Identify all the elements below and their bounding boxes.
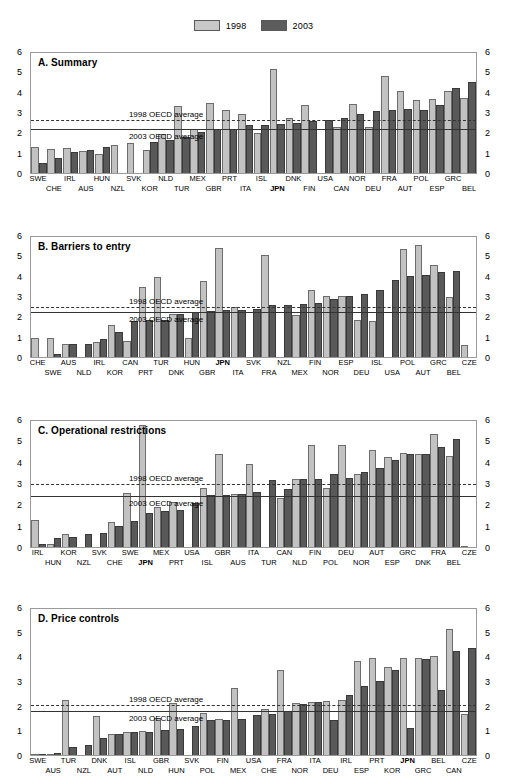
- bar-AUS-1998: [79, 151, 87, 173]
- bar-GBR-2003: [223, 495, 230, 547]
- bar-IRL-1998: [31, 520, 38, 547]
- bar-GBR-1998: [154, 718, 161, 755]
- bar-NOR-1998: [323, 296, 330, 357]
- bar-POL-1998: [400, 249, 407, 357]
- y-tick-3: 3: [481, 479, 507, 489]
- bar-NLD-2003: [85, 344, 92, 357]
- bar-group: [92, 609, 107, 755]
- bar-TUR-2003: [182, 137, 190, 173]
- bar-MEX-2003: [161, 511, 168, 547]
- bar-group: [307, 237, 322, 357]
- reference-line-2003-average: 2003 OECD average: [31, 496, 476, 497]
- y-axis-left: 6543210: [0, 608, 26, 756]
- bar-FIN-2003: [315, 479, 322, 547]
- y-tick-3: 3: [0, 108, 26, 118]
- x-label-CZE: CZE: [449, 548, 489, 558]
- bar-SWE-1998: [47, 338, 54, 357]
- y-tick-6: 6: [481, 47, 507, 57]
- reference-line-2003-average: 2003 OECD average: [31, 711, 476, 712]
- bar-JPN-2003: [407, 728, 414, 755]
- bar-group: [277, 609, 292, 755]
- bar-HUN-1998: [185, 338, 192, 357]
- y-tick-5: 5: [0, 628, 26, 638]
- legend-entry-1998: 1998: [194, 20, 247, 31]
- bar-KOR-2003: [150, 142, 158, 173]
- legend-swatch-1998: [194, 20, 220, 31]
- x-label-text: CZE: [449, 358, 489, 368]
- bar-group: [461, 237, 476, 357]
- bar-ITA-1998: [246, 464, 253, 547]
- bar-series-container: [31, 237, 476, 357]
- reference-line-1998-average-label: 1998 OECD average: [129, 297, 203, 306]
- y-tick-4: 4: [0, 88, 26, 98]
- bar-FIN-1998: [215, 719, 222, 756]
- y-tick-2: 2: [0, 312, 26, 322]
- bar-GRC-2003: [452, 88, 460, 173]
- legend-swatch-2003: [261, 20, 287, 31]
- x-label-BEL: BEL: [449, 184, 489, 194]
- bar-AUT-2003: [422, 275, 429, 357]
- bar-CAN-2003: [284, 489, 291, 547]
- bar-group: [412, 53, 428, 173]
- bar-group: [292, 237, 307, 357]
- bar-group: [415, 237, 430, 357]
- x-label-text: GRC: [433, 174, 473, 184]
- x-label-GRC: GRC: [433, 174, 473, 184]
- y-tick-3: 3: [0, 292, 26, 302]
- legend-label-1998: 1998: [226, 21, 247, 31]
- bar-group: [46, 237, 61, 357]
- bar-SWE-1998: [31, 147, 39, 173]
- bar-AUS-1998: [62, 344, 69, 357]
- bar-KOR-2003: [115, 332, 122, 357]
- bar-FRA-1998: [430, 434, 437, 547]
- bar-KOR-2003: [69, 537, 76, 547]
- bar-PRT-2003: [146, 320, 153, 357]
- bar-group: [415, 609, 430, 755]
- bar-group: [277, 237, 292, 357]
- bar-ISL-1998: [369, 321, 376, 357]
- bar-NZL-1998: [111, 145, 119, 173]
- y-tick-6: 6: [481, 603, 507, 613]
- bar-NLD-1998: [292, 479, 299, 547]
- bar-group: [323, 237, 338, 357]
- bar-GRC-1998: [444, 91, 452, 173]
- y-tick-5: 5: [0, 436, 26, 446]
- bar-group: [46, 609, 61, 755]
- x-label-text: CZE: [449, 756, 489, 766]
- bar-FRA-2003: [284, 711, 291, 755]
- bar-POL-2003: [420, 110, 428, 173]
- bar-group: [47, 53, 63, 173]
- bar-group: [138, 609, 153, 755]
- bar-ITA-1998: [231, 307, 238, 357]
- y-tick-2: 2: [481, 312, 507, 322]
- bar-DEU-1998: [354, 320, 361, 357]
- bar-BEL-2003: [453, 439, 460, 547]
- bar-ITA-1998: [238, 114, 246, 173]
- bar-IRL-2003: [71, 152, 79, 173]
- bar-GRC-2003: [407, 454, 414, 547]
- bar-CHE-1998: [108, 522, 115, 547]
- reference-line-1998-average-label: 1998 OECD average: [129, 695, 203, 704]
- bar-CAN-1998: [333, 127, 341, 173]
- legend-label-2003: 2003: [293, 21, 314, 31]
- x-axis-labels: IRLHUNKORNZLSVKCHESWEJPNMEXPRTUSAISLGBRA…: [30, 548, 477, 570]
- bar-DNK-2003: [100, 738, 107, 755]
- bar-group: [353, 237, 368, 357]
- bar-group: [307, 609, 322, 755]
- chart-legend: 1998 2003: [0, 20, 507, 31]
- bar-AUS-1998: [47, 754, 54, 755]
- y-tick-4: 4: [481, 88, 507, 98]
- bar-DNK-1998: [93, 716, 100, 755]
- bar-PRT-2003: [230, 129, 238, 173]
- bar-SWE-2003: [39, 754, 46, 755]
- bar-TUR-2003: [269, 480, 276, 547]
- bar-group: [285, 53, 301, 173]
- y-tick-5: 5: [481, 251, 507, 261]
- y-axis-right: 6543210: [481, 52, 507, 174]
- bar-POL-2003: [330, 474, 337, 547]
- x-axis-labels: SWECHEIRLAUSHUNNZLSVKKORNLDTURMEXGBRPRTI…: [30, 174, 477, 196]
- bar-NOR-1998: [349, 104, 357, 173]
- bar-SWE-2003: [39, 163, 47, 173]
- bar-group: [261, 237, 276, 357]
- bar-group: [246, 609, 261, 755]
